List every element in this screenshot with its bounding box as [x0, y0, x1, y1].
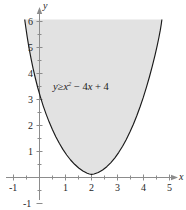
annotation-tail: + 4 [92, 81, 108, 92]
y-tick-label-3: 3 [28, 95, 33, 105]
x-tick-label-3: 3 [115, 183, 120, 193]
y-axis-arrow [37, 7, 42, 14]
y-axis-label: y [43, 1, 47, 11]
inequality-annotation: y≥x2 − 4x + 4 [53, 82, 109, 93]
graph-figure: -1 1 2 3 4 5 6 5 4 3 2 1 -1 y x y≥x2 − 4… [0, 0, 186, 210]
y-tick-label-6: 6 [28, 17, 33, 27]
y-tick-label-1: 1 [28, 147, 33, 157]
y-tick-label-4: 4 [28, 69, 33, 79]
x-axis-arrow [171, 175, 178, 180]
y-tick-label-5: 5 [28, 43, 33, 53]
x-tick-label-neg1: -1 [9, 183, 17, 193]
y-tick-label-neg1: -1 [23, 199, 31, 209]
x-tick-label-5: 5 [167, 183, 172, 193]
x-tick-label-1: 1 [63, 183, 68, 193]
x-axis-label: x [179, 172, 183, 182]
y-tick-label-2: 2 [28, 121, 33, 131]
annotation-middle: − 4 [71, 81, 87, 92]
shaded-region [25, 20, 162, 175]
x-tick-label-2: 2 [89, 183, 94, 193]
coordinate-plane [0, 0, 186, 210]
x-tick-label-4: 4 [141, 183, 146, 193]
